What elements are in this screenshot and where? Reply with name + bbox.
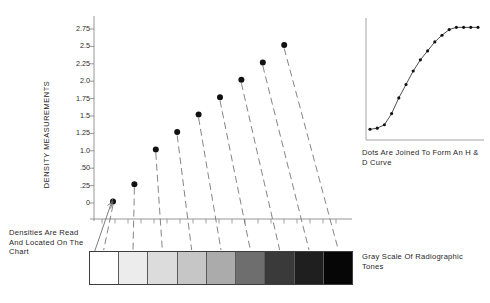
grayscale-step — [295, 252, 324, 284]
grayscale-step — [90, 252, 119, 284]
grayscale-step — [265, 252, 294, 284]
hd-curve-line — [370, 27, 478, 129]
hd-chart-axes — [366, 18, 484, 140]
grayscale-step — [119, 252, 148, 284]
grayscale-step — [207, 252, 236, 284]
grayscale-step — [236, 252, 265, 284]
densities-read-annotation: Densities Are Read And Located On The Ch… — [9, 228, 93, 257]
grayscale-step-wedge — [89, 251, 353, 285]
grayscale-step — [178, 252, 207, 284]
hd-curve-caption: Dots Are Joined To Form An H & D Curve — [362, 148, 482, 167]
hd-curve-points — [368, 26, 479, 131]
grayscale-step — [324, 252, 352, 284]
figure-root: DENSITY MEASUREMENTS 2.752.52.252.01.751… — [0, 0, 490, 303]
grayscale-step — [148, 252, 177, 284]
grayscale-caption: Gray Scale Of Radiographic Tones — [362, 252, 484, 271]
